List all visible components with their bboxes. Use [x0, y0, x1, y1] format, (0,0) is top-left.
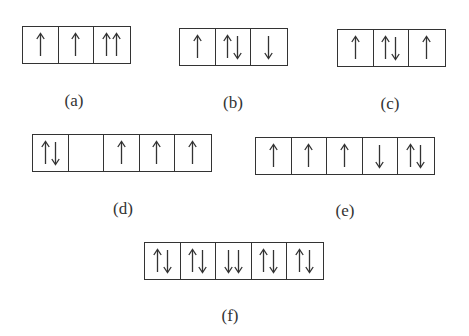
spin-up-arrow-icon — [304, 143, 313, 169]
spin-up-arrow-icon — [406, 143, 415, 169]
spin-up-arrow-icon — [193, 34, 202, 60]
spin-up-arrow-icon — [223, 34, 232, 60]
orbital-box-d-3 — [104, 135, 140, 171]
spin-up-arrow-icon — [295, 248, 304, 274]
orbital-box-d-4 — [140, 135, 176, 171]
orbital-box-a-2 — [59, 27, 95, 63]
spin-up-arrow-icon — [112, 32, 121, 58]
diagram-label-b: (b) — [213, 93, 253, 113]
orbital-box-b-2 — [216, 29, 252, 65]
spin-down-arrow-icon — [269, 248, 278, 274]
spin-down-arrow-icon — [224, 248, 233, 274]
spin-up-arrow-icon — [153, 248, 162, 274]
spin-down-arrow-icon — [416, 143, 425, 169]
orbital-box-d-2 — [69, 135, 105, 171]
orbital-box-diagram-d — [32, 134, 212, 172]
orbital-box-f-4 — [252, 243, 288, 279]
spin-up-arrow-icon — [381, 35, 390, 61]
spin-down-arrow-icon — [51, 140, 60, 166]
spin-up-arrow-icon — [71, 32, 80, 58]
diagram-label-a: (a) — [54, 91, 94, 111]
orbital-box-diagram-c — [337, 29, 446, 67]
spin-up-arrow-icon — [351, 35, 360, 61]
orbital-box-c-2 — [374, 30, 410, 66]
orbital-box-c-3 — [409, 30, 445, 66]
diagram-label-e: (e) — [325, 201, 365, 221]
diagram-label-f: (f) — [210, 306, 250, 326]
orbital-box-diagram-b — [179, 28, 288, 66]
spin-down-arrow-icon — [233, 34, 242, 60]
spin-down-arrow-icon — [375, 143, 384, 169]
spin-up-arrow-icon — [188, 140, 197, 166]
spin-up-arrow-icon — [117, 140, 126, 166]
spin-down-arrow-icon — [198, 248, 207, 274]
orbital-box-f-1 — [145, 243, 181, 279]
orbital-box-b-1 — [180, 29, 216, 65]
spin-up-arrow-icon — [188, 248, 197, 274]
spin-down-arrow-icon — [163, 248, 172, 274]
orbital-box-e-4 — [363, 138, 399, 174]
diagram-label-d: (d) — [103, 199, 143, 219]
spin-up-arrow-icon — [269, 143, 278, 169]
spin-up-arrow-icon — [422, 35, 431, 61]
spin-up-arrow-icon — [41, 140, 50, 166]
orbital-box-e-2 — [292, 138, 328, 174]
spin-up-arrow-icon — [259, 248, 268, 274]
diagram-label-c: (c) — [370, 94, 410, 114]
orbital-box-f-3 — [216, 243, 252, 279]
orbital-box-f-5 — [287, 243, 323, 279]
spin-down-arrow-icon — [264, 34, 273, 60]
orbital-box-d-1 — [33, 135, 69, 171]
orbital-box-e-1 — [256, 138, 292, 174]
orbital-box-b-3 — [251, 29, 287, 65]
orbital-box-e-5 — [398, 138, 434, 174]
orbital-box-a-1 — [23, 27, 59, 63]
orbital-box-f-2 — [181, 243, 217, 279]
spin-up-arrow-icon — [36, 32, 45, 58]
spin-up-arrow-icon — [102, 32, 111, 58]
orbital-box-diagram-e — [255, 137, 435, 175]
spin-down-arrow-icon — [391, 35, 400, 61]
spin-down-arrow-icon — [234, 248, 243, 274]
spin-up-arrow-icon — [152, 140, 161, 166]
orbital-box-diagram-a — [22, 26, 131, 64]
orbital-box-diagram-f — [144, 242, 324, 280]
orbital-box-c-1 — [338, 30, 374, 66]
orbital-box-e-3 — [327, 138, 363, 174]
spin-up-arrow-icon — [340, 143, 349, 169]
orbital-box-a-3 — [94, 27, 130, 63]
orbital-box-d-5 — [175, 135, 211, 171]
spin-down-arrow-icon — [305, 248, 314, 274]
